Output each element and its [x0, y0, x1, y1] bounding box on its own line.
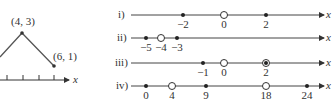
tick-label: 0 — [221, 18, 227, 30]
point-label-6-1: (6, 1) — [53, 50, 77, 63]
closed-dot — [181, 13, 185, 17]
x-axis-label: x — [72, 73, 78, 85]
tick-label: 0 — [143, 89, 149, 101]
line-label: iv) — [116, 79, 129, 92]
tick-label: −1 — [197, 66, 209, 78]
line-label: i) — [118, 8, 125, 21]
closed-dot — [175, 36, 179, 40]
x-axis-label: x — [325, 8, 331, 20]
graph-line — [0, 33, 54, 66]
point-4-3 — [20, 31, 24, 35]
tick-label: −2 — [177, 18, 189, 30]
x-axis-label: x — [325, 31, 331, 43]
tick-label: 0 — [221, 66, 227, 78]
tick-label: 2 — [263, 66, 269, 78]
number-line-iii: iii) x −1 0 2 — [115, 56, 331, 78]
tick-label: 18 — [261, 89, 273, 101]
left-graph: (4, 3) (6, 1) x — [0, 15, 78, 85]
line-label: ii) — [117, 31, 127, 44]
tick-label: 4 — [169, 89, 175, 101]
closed-dot — [144, 84, 148, 88]
number-line-ii: ii) x −5 −4 −3 — [117, 31, 331, 53]
tick-label: −4 — [155, 41, 167, 53]
diagram-canvas: (4, 3) (6, 1) x i) x −2 0 2 ii) x −5 −4 … — [0, 0, 334, 106]
line-label: iii) — [115, 56, 128, 69]
closed-dot — [264, 61, 268, 65]
closed-dot — [204, 84, 208, 88]
closed-dot — [305, 84, 309, 88]
tick-label: 24 — [302, 89, 314, 101]
tick-label: 9 — [203, 89, 209, 101]
closed-dot — [201, 61, 205, 65]
x-axis-label: x — [325, 79, 331, 91]
point-6-1 — [52, 64, 56, 68]
closed-dot — [144, 36, 148, 40]
number-line-i: i) x −2 0 2 — [118, 8, 331, 30]
tick-label: −5 — [140, 41, 152, 53]
closed-dot — [264, 13, 268, 17]
tick-label: 2 — [263, 18, 269, 30]
tick-label: −3 — [171, 41, 183, 53]
number-line-iv: iv) x 0 4 9 18 24 — [116, 79, 331, 101]
x-axis-label: x — [325, 56, 331, 68]
point-label-4-3: (4, 3) — [11, 15, 35, 28]
